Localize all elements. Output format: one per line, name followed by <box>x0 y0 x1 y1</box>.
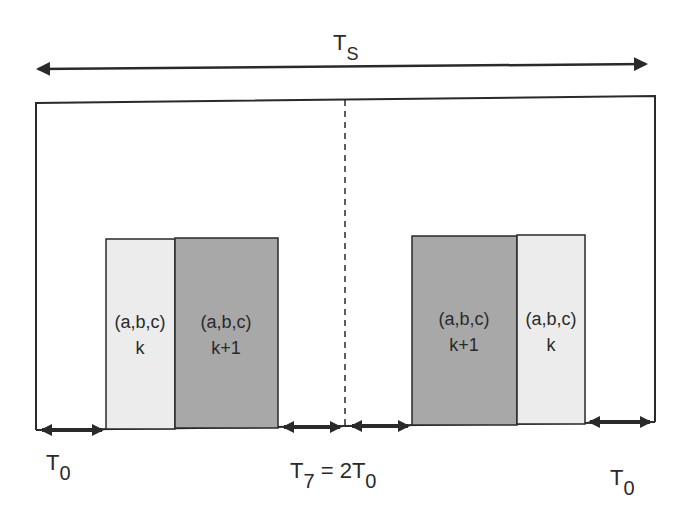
right-slot-k1-label-1: (a,b,c) <box>438 309 489 329</box>
right-slot-k <box>517 235 585 424</box>
left-slot-k-label-2: k <box>136 338 146 358</box>
left-slot-k1-label-2: k+1 <box>211 338 241 358</box>
right-block: (a,b,c) k+1 (a,b,c) k <box>412 235 585 425</box>
left-slot-k1-label-1: (a,b,c) <box>200 312 251 332</box>
switching-period-diagram: TS (a,b,c) k (a,b,c) k+1 (a,b,c) k+1 (a,… <box>0 0 687 517</box>
right-slot-k-label-1: (a,b,c) <box>525 309 576 329</box>
left-slot-k <box>106 239 175 429</box>
t7-label: T7 = 2T0 <box>290 458 376 492</box>
right-slot-k-label-2: k <box>547 335 557 355</box>
t0-left-label: T0 <box>46 450 71 484</box>
right-slot-k-plus-1 <box>412 236 517 425</box>
left-slot-k-plus-1 <box>175 238 278 428</box>
left-block: (a,b,c) k (a,b,c) k+1 <box>106 238 278 429</box>
t0-right-label: T0 <box>610 465 635 499</box>
period-label: TS <box>333 30 358 64</box>
period-arrow <box>38 64 646 69</box>
left-slot-k-label-1: (a,b,c) <box>114 312 165 332</box>
right-slot-k1-label-2: k+1 <box>449 335 479 355</box>
